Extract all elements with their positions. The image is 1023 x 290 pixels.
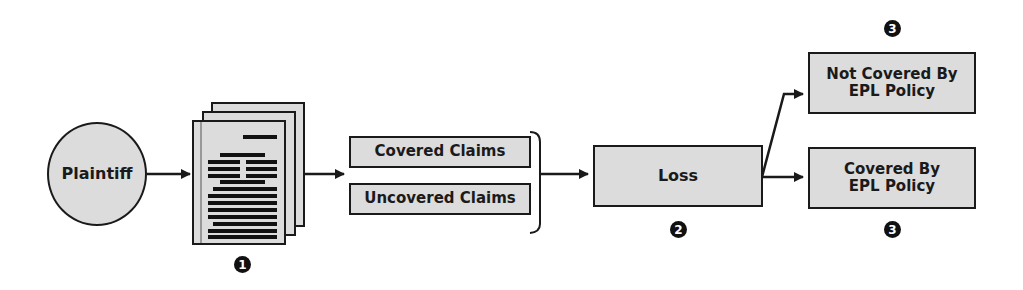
loss-label: Loss — [593, 145, 763, 207]
not-covered-label: Not Covered By EPL Policy — [816, 52, 968, 114]
marker-covered: 3 — [884, 221, 901, 238]
arrow-loss-to-not-covered — [762, 94, 803, 177]
complaint-document-icon — [193, 103, 304, 244]
marker-loss: 2 — [670, 221, 687, 238]
plaintiff-label: Plaintiff — [47, 122, 147, 226]
uncovered-claims-label: Uncovered Claims — [349, 183, 531, 215]
claims-brace — [530, 132, 540, 233]
marker-complaint: 1 — [234, 256, 251, 273]
covered-label: Covered By EPL Policy — [830, 147, 954, 209]
covered-claims-label: Covered Claims — [349, 136, 531, 168]
marker-not-covered: 3 — [884, 20, 901, 37]
